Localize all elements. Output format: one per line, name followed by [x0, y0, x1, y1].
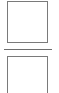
- numerator-box[interactable]: [7, 1, 48, 43]
- fraction-divider: [4, 49, 52, 50]
- fraction-template: [0, 0, 59, 93]
- denominator-box[interactable]: [7, 56, 48, 93]
